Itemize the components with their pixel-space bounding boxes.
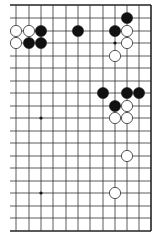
white-stone xyxy=(121,25,132,36)
black-stone xyxy=(121,87,132,98)
go-board xyxy=(0,0,156,236)
stones-layer xyxy=(10,12,144,198)
black-stone xyxy=(109,25,120,36)
star-point xyxy=(113,41,116,44)
white-stone xyxy=(10,25,21,36)
black-stone xyxy=(72,25,83,36)
black-stone xyxy=(35,25,46,36)
white-stone xyxy=(121,37,132,48)
star-point xyxy=(39,116,42,119)
black-stone xyxy=(35,37,46,48)
white-stone xyxy=(121,112,132,123)
white-stone xyxy=(121,100,132,111)
white-stone xyxy=(121,150,132,161)
white-stone xyxy=(23,25,34,36)
white-stone xyxy=(10,37,21,48)
black-stone xyxy=(133,87,144,98)
black-stone xyxy=(23,37,34,48)
black-stone xyxy=(109,100,120,111)
white-stone xyxy=(109,187,120,198)
white-stone xyxy=(109,50,120,61)
black-stone xyxy=(97,87,108,98)
black-stone xyxy=(121,12,132,23)
white-stone xyxy=(109,112,120,123)
star-point xyxy=(39,191,42,194)
